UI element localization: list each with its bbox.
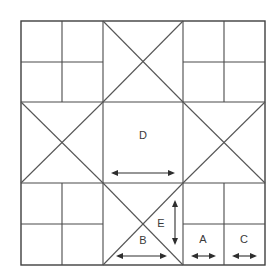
diagram-canvas: D E B A C — [0, 0, 280, 279]
unit-bottom-center-x-block — [103, 183, 183, 265]
arrowhead-left — [111, 170, 118, 176]
arrowhead-left — [232, 253, 239, 259]
piece-label-d: D — [139, 129, 147, 141]
arrowhead-bottom — [172, 238, 178, 245]
unit-bottom-left-four-patch — [21, 183, 103, 265]
block-outline — [21, 21, 265, 265]
piece-label-a: A — [199, 233, 207, 245]
piece-label-e: E — [157, 217, 164, 229]
arrowhead-right — [160, 253, 167, 259]
arrowhead-right — [168, 170, 175, 176]
piece-label-c: C — [240, 233, 248, 245]
arrowhead-right — [209, 253, 216, 259]
quilt-block-diagram: D E B A C — [0, 0, 280, 279]
unit-top-left-four-patch — [21, 21, 103, 102]
dimension-arrow-a — [191, 253, 216, 259]
unit-bottom-right-four-patch — [183, 183, 265, 265]
arrowhead-right — [250, 253, 257, 259]
dimension-arrow-e — [172, 200, 178, 245]
unit-top-center-x-block — [103, 21, 183, 102]
unit-top-right-four-patch — [183, 21, 265, 102]
arrowhead-top — [172, 200, 178, 207]
unit-middle-left-x-block — [21, 102, 103, 183]
arrowhead-left — [191, 253, 198, 259]
piece-label-b: B — [139, 234, 146, 246]
dimension-arrow-d — [111, 170, 175, 176]
unit-middle-right-x-block — [183, 102, 265, 183]
arrowhead-left — [116, 253, 123, 259]
band-grid-lines — [21, 21, 265, 265]
dimension-arrow-b — [116, 253, 167, 259]
dimension-arrow-c — [232, 253, 257, 259]
